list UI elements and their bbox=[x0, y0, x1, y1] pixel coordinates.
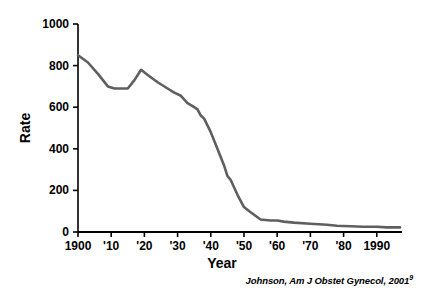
rate-vs-year-line-chart: 02004006008001000 1900'10'20'30'40'50'60… bbox=[0, 0, 421, 292]
citation-superscript: 9 bbox=[409, 274, 413, 281]
x-tick-label: '10 bbox=[103, 239, 120, 253]
x-tick-label: 1990 bbox=[363, 239, 390, 253]
y-axis-title: Rate bbox=[17, 113, 33, 144]
x-tick-label: '40 bbox=[203, 239, 220, 253]
y-tick-label: 200 bbox=[49, 183, 69, 197]
x-tick-label: '50 bbox=[236, 239, 253, 253]
x-tick-label: '30 bbox=[169, 239, 186, 253]
x-tick-label: 1900 bbox=[65, 239, 92, 253]
source-citation: Johnson, Am J Obstet Gynecol, 20019 bbox=[246, 274, 413, 286]
x-axis-title: Year bbox=[207, 255, 237, 271]
y-tick-label: 600 bbox=[49, 100, 69, 114]
y-tick-label: 0 bbox=[62, 225, 69, 239]
y-tick-label: 400 bbox=[49, 142, 69, 156]
y-tick-label: 800 bbox=[49, 59, 69, 73]
x-tick-label: '60 bbox=[269, 239, 286, 253]
citation-text: Johnson, Am J Obstet Gynecol, 2001 bbox=[246, 275, 410, 286]
chart-figure: 02004006008001000 1900'10'20'30'40'50'60… bbox=[0, 0, 421, 292]
x-tick-label: '70 bbox=[302, 239, 319, 253]
y-tick-label: 1000 bbox=[42, 17, 69, 31]
x-tick-label: '80 bbox=[335, 239, 352, 253]
x-tick-label: '20 bbox=[136, 239, 153, 253]
